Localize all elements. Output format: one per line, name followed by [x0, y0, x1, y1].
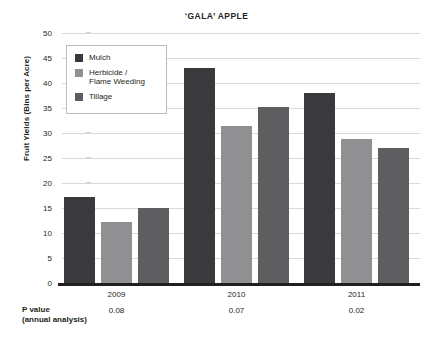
- legend-item[interactable]: Tillage: [75, 92, 166, 102]
- y-axis-tick-label: 20: [30, 179, 52, 188]
- legend-item-label: Tillage: [89, 92, 112, 102]
- y-axis-tick-label: 25: [30, 154, 52, 163]
- p-value: 0.08: [77, 306, 157, 315]
- p-value: 0.02: [317, 306, 397, 315]
- legend-item-label: Mulch: [89, 53, 110, 63]
- gridline: [62, 33, 420, 34]
- bar: [221, 126, 252, 284]
- y-axis-tick-label: 0: [30, 279, 52, 288]
- p-value-caption: P value (annual analysis): [22, 305, 87, 325]
- bar: [184, 68, 215, 283]
- bar: [304, 93, 335, 284]
- legend-item-label: Herbicide / Flame Weeding: [89, 68, 145, 87]
- y-axis-tick-label: 50: [30, 29, 52, 38]
- y-axis-tick-label: 45: [30, 54, 52, 63]
- chart-legend: MulchHerbicide / Flame WeedingTillage: [66, 45, 167, 114]
- y-axis-tick-label: 35: [30, 104, 52, 113]
- y-axis-ticks: 50454035302520151050: [30, 33, 56, 283]
- y-axis-tick-label: 30: [30, 129, 52, 138]
- bar: [101, 222, 132, 283]
- x-axis-tick-label: 2011: [317, 290, 397, 299]
- y-axis-tick-label: 40: [30, 79, 52, 88]
- legend-item[interactable]: Herbicide / Flame Weeding: [75, 68, 166, 87]
- x-axis-tick-label: 2010: [197, 290, 277, 299]
- p-value: 0.07: [197, 306, 277, 315]
- bar: [378, 148, 409, 283]
- x-axis-tick-label: 2009: [77, 290, 157, 299]
- chart-title: ‘GALA’ APPLE: [0, 11, 433, 21]
- legend-swatch-icon: [75, 93, 83, 101]
- y-axis-tick-label: 10: [30, 229, 52, 238]
- legend-swatch-icon: [75, 54, 83, 62]
- legend-swatch-icon: [75, 69, 83, 77]
- y-axis-tick-label: 5: [30, 254, 52, 263]
- x-axis-line: [58, 283, 420, 286]
- bar: [341, 139, 372, 283]
- bar: [64, 197, 95, 283]
- bar: [138, 208, 169, 284]
- y-axis-tick-label: 15: [30, 204, 52, 213]
- legend-item[interactable]: Mulch: [75, 53, 166, 63]
- bar: [258, 107, 289, 284]
